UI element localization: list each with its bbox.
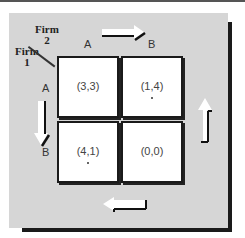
arrow-down-icon — [33, 99, 53, 149]
frame-shadow-bottom — [22, 228, 232, 232]
row-strategy-a: A — [42, 82, 49, 94]
row-player-number: 1 — [14, 57, 40, 68]
col-player-label: Firm 2 — [34, 24, 60, 46]
col-strategy-b: B — [148, 38, 155, 50]
arrow-up-icon — [196, 96, 216, 146]
payoff: (3,3) — [59, 80, 117, 92]
cell-b-b: (0,0) — [121, 121, 183, 183]
row-player-label: Firm 1 — [14, 46, 40, 68]
arrow-left-icon — [100, 196, 150, 214]
frame-shadow-right — [228, 22, 232, 232]
cell-a-b: (1,4) — [121, 56, 183, 118]
payoff: (1,4) — [123, 80, 181, 92]
equilibrium-dot-icon — [151, 97, 153, 99]
payoff: (4,1) — [59, 145, 117, 157]
col-strategy-a: A — [84, 38, 91, 50]
equilibrium-dot-icon — [87, 162, 89, 164]
top-rule — [0, 0, 245, 2]
cell-a-a: (3,3) — [57, 56, 119, 118]
payoff: (0,0) — [123, 145, 181, 157]
arrow-right-icon — [100, 24, 148, 42]
cell-b-a: (4,1) — [57, 121, 119, 183]
